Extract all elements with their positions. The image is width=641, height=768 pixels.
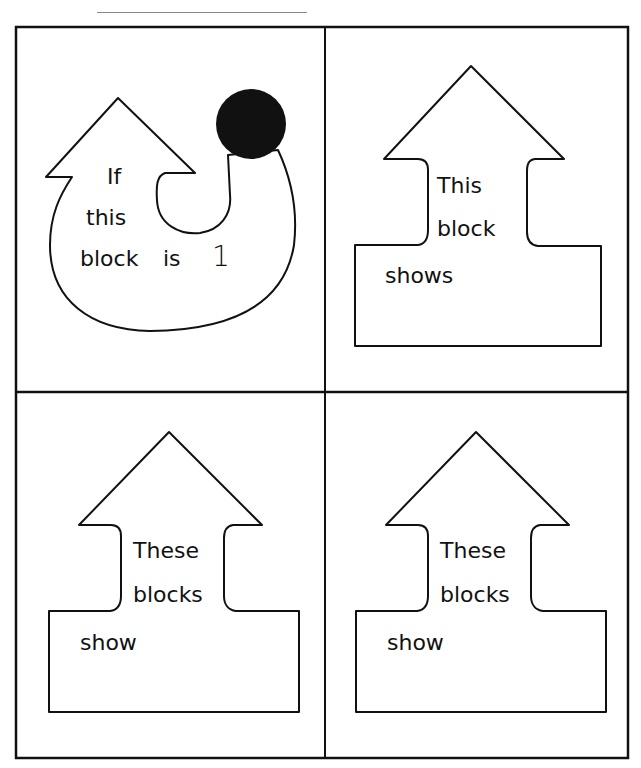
card2-line3: shows: [385, 263, 453, 288]
card1-line2: this: [86, 205, 126, 230]
card4-line2: blocks: [440, 582, 510, 607]
card3-line2: blocks: [133, 582, 203, 607]
card2-line2: block: [437, 216, 496, 241]
card4-line3: show: [387, 630, 444, 655]
card-bottom-left: These blocks show: [49, 432, 299, 712]
card4-line1: These: [439, 538, 506, 563]
card1-line1: If: [107, 164, 122, 189]
up-arrow-shape: [356, 432, 606, 712]
card2-line1: This: [436, 173, 482, 198]
card1-line4: is: [163, 246, 181, 271]
card-bottom-right: These blocks show: [356, 432, 606, 712]
card3-line1: These: [132, 538, 199, 563]
card3-line3: show: [80, 630, 137, 655]
worksheet-grid: If this block is 1 This block shows Thes…: [0, 0, 641, 768]
filled-circle-icon: [216, 89, 286, 159]
card-top-right: This block shows: [355, 66, 601, 346]
up-arrow-shape: [49, 432, 299, 712]
card1-number: 1: [212, 240, 230, 273]
card-top-left: If this block is 1: [46, 89, 295, 331]
card1-line3: block: [80, 246, 139, 271]
up-arrow-shape: [355, 66, 601, 346]
